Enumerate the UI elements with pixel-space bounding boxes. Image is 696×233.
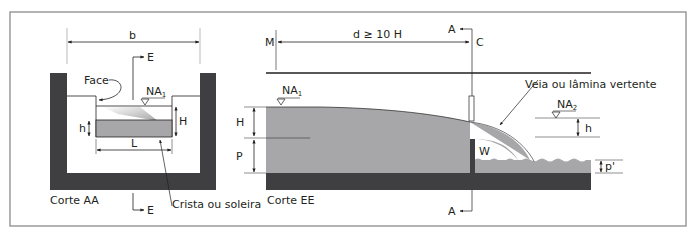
svg-text:NA1: NA1 [282, 84, 302, 98]
crest-length-label: L [131, 137, 138, 150]
corte-aa-title: Corte AA [50, 194, 99, 207]
weir-plate-outline [67, 96, 200, 106]
weir-plate [470, 139, 475, 173]
crest-height-label: h [79, 122, 86, 135]
section-marker-e-bottom: E [147, 204, 154, 217]
head-label-h-left: H [179, 115, 187, 128]
head-label-h-right: H [236, 116, 244, 129]
water-level-na1-left: NA1 [141, 85, 166, 105]
section-marker-e-top: E [147, 51, 154, 64]
downstream-water [474, 159, 591, 174]
corte-ee-title: Corte EE [267, 194, 314, 207]
left-view-corte-aa: b E E Face NA1 H h L Crista ou soleira C… [50, 28, 261, 217]
svg-text:NA1: NA1 [146, 85, 166, 99]
channel-floor [266, 173, 591, 190]
weir-point-c: C [476, 36, 484, 49]
section-marker-a-top: A [448, 23, 456, 36]
section-marker-a-bottom: A [448, 205, 456, 218]
crest-block [96, 120, 172, 137]
downstream-h-label: h [585, 122, 592, 135]
crest-label: Crista ou soleira [172, 198, 261, 211]
nappe-label: Veia ou lâmina vertente [525, 78, 657, 91]
right-view-corte-ee: A A M d ≥ 10 H C NA1 H P Veia ou lâmina … [236, 23, 657, 218]
weir-diagram: b E E Face NA1 H h L Crista ou soleira C… [0, 0, 696, 233]
face-label: Face [84, 74, 109, 87]
measure-point-m: M [265, 36, 275, 49]
weir-plate-upper [469, 96, 474, 121]
distance-label: d ≥ 10 H [353, 28, 402, 41]
air-pocket-label-w: W [479, 145, 490, 158]
width-label-b: b [129, 29, 136, 42]
water-surface-sheet [103, 107, 158, 121]
upstream-water [266, 107, 470, 173]
weir-height-label-p: P [236, 150, 243, 163]
water-level-na2: NA2 [552, 98, 577, 118]
water-level-na1-right: NA1 [277, 84, 302, 105]
downstream-p-label: p' [605, 160, 615, 173]
svg-text:NA2: NA2 [557, 98, 577, 112]
